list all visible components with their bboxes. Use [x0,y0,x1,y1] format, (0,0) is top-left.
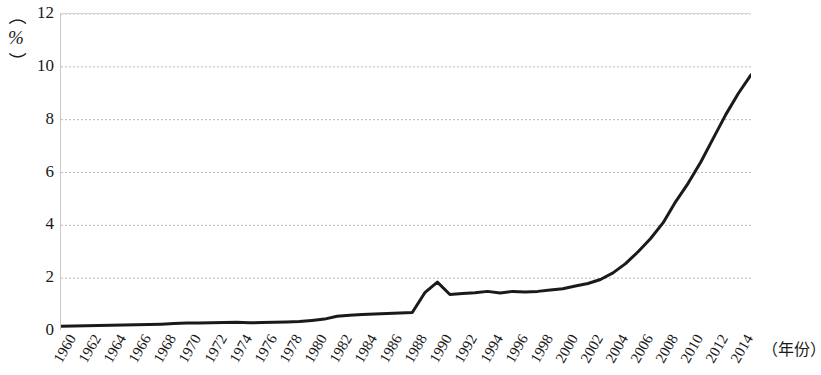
y-axis-tick-label: 6 [28,163,54,180]
x-axis-tick-label: 1984 [352,332,380,365]
x-axis-tick-label: 1972 [202,332,230,365]
gridlines [61,14,751,278]
x-axis-tick-label: 2010 [678,332,706,365]
x-axis-tick-label: 1970 [176,332,204,365]
y-axis-tick-labels: 024681012 [22,0,54,375]
x-axis-tick-labels: 1960196219641966196819701972197419761978… [60,332,760,375]
x-axis-tick-label: 1992 [452,332,480,365]
x-axis-tick-label: 2006 [628,332,656,365]
x-axis-tick-label: 1978 [277,332,305,365]
y-axis-tick-label: 4 [28,215,54,232]
x-axis-tick-label: 2002 [578,332,606,365]
x-axis-tick-label: 2012 [703,332,731,365]
y-axis-tick-label: 10 [28,57,54,74]
line-chart: （ % ） 024681012 196019621964196619681970… [0,0,821,375]
data-series-line [61,75,751,326]
x-axis-tick-label: 1982 [327,332,355,365]
x-axis-tick-label: 1966 [126,332,154,365]
x-axis-tick-label: 1996 [503,332,531,365]
x-axis-tick-label: 2008 [653,332,681,365]
plot-area [60,13,750,330]
x-axis-title: （年份） [762,342,821,358]
x-axis-tick-label: 1998 [528,332,556,365]
plot-svg [61,14,751,331]
x-axis-tick-label: 1960 [51,332,79,365]
x-axis-tick-label: 1990 [427,332,455,365]
x-axis-tick-label: 1974 [227,332,255,365]
x-axis-tick-label: 1962 [76,332,104,365]
y-axis-tick-label: 12 [28,4,54,21]
x-axis-tick-label: 1976 [252,332,280,365]
x-axis-tick-label: 1980 [302,332,330,365]
x-axis-tick-label: 2014 [728,332,756,365]
x-axis-tick-label: 2004 [603,332,631,365]
x-axis-tick-label: 2000 [553,332,581,365]
y-axis-tick-label: 8 [28,110,54,127]
x-axis-tick-label: 1964 [101,332,129,365]
x-axis-tick-label: 1994 [478,332,506,365]
x-axis-tick-label: 1988 [402,332,430,365]
y-axis-tick-label: 2 [28,268,54,285]
x-axis-tick-label: 1986 [377,332,405,365]
y-axis-tick-label: 0 [28,321,54,338]
x-axis-tick-label: 1968 [151,332,179,365]
